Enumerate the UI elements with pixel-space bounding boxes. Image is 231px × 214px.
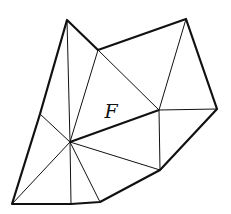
edge-H-O	[70, 142, 71, 204]
edge-A-O	[67, 20, 70, 142]
edge-C-P	[159, 19, 186, 110]
edge-E-P	[159, 110, 160, 170]
edge-D-P	[159, 109, 217, 110]
edge-B-O	[70, 50, 98, 142]
face-label: F	[103, 100, 118, 122]
triangulation-diagram: F	[0, 0, 231, 214]
edge-G-O	[70, 142, 100, 202]
edge-J-O	[40, 114, 70, 142]
edge-E-O	[70, 142, 160, 170]
